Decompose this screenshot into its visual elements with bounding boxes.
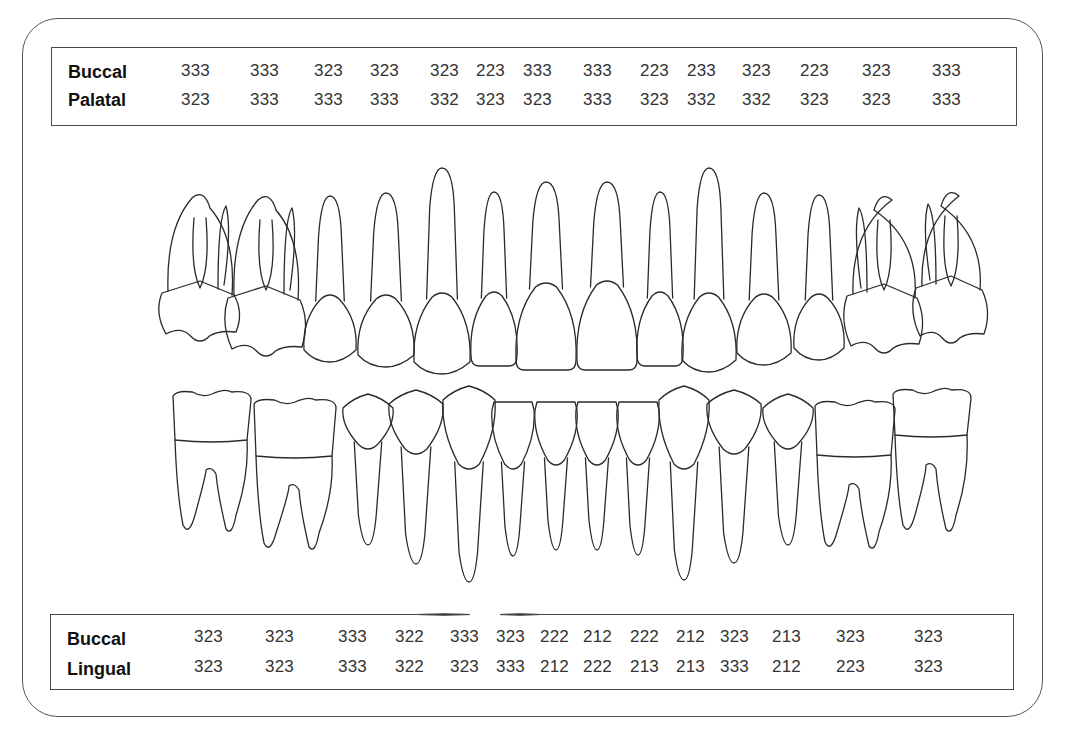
lower-canine-root-icon [455,462,484,582]
upper-incisor-crown-icon [577,281,637,370]
upper-incisor-root-icon [530,182,563,289]
upper-molar-root-icon [284,208,295,294]
upper-molar-crown-icon [159,281,240,341]
upper-incisor-root-icon [647,192,672,298]
lower-molar-root-icon [256,456,332,549]
lower-molar-root-icon [175,440,247,531]
upper-premolar-root-icon [316,196,345,301]
upper-molar-root-icon [234,197,299,300]
lower-canine-crown-icon [443,386,495,469]
lower-premolar-root-icon [774,442,802,545]
dental-arch-diagram [0,0,1069,740]
upper-premolar-crown-icon [304,295,356,362]
lower-incisor-crown-icon [576,402,618,465]
upper-premolar-root-icon [805,195,833,300]
lower-premolar-root-icon [354,442,382,545]
lower-canine-crown-icon [659,386,709,469]
upper-incisor-crown-icon [637,292,683,366]
upper-molar-root-icon [853,197,915,298]
upper-premolar-root-icon [371,193,402,301]
lower-incisor-crown-icon [535,402,577,465]
lower-molar-crown-icon [815,400,895,457]
upper-molar-root-icon [877,220,891,290]
upper-incisor-crown-icon [516,283,576,370]
upper-canine-root-icon [694,168,724,299]
lower-arch-teeth [173,386,971,582]
lower-premolar-crown-icon [763,394,813,449]
upper-premolar-crown-icon [794,294,844,360]
upper-incisor-root-icon [591,182,624,287]
upper-molar-crown-icon [225,286,306,356]
lower-incisor-crown-icon [492,402,534,469]
lower-premolar-crown-icon [707,390,761,454]
upper-molar-crown-icon [844,284,923,353]
lower-premolar-root-icon [401,447,431,564]
upper-molar-root-icon [193,218,207,288]
upper-molar-root-icon [168,195,233,295]
upper-molar-crown-icon [913,276,988,343]
upper-incisor-crown-icon [471,292,517,366]
lower-premolar-crown-icon [343,394,393,449]
upper-incisor-root-icon [481,192,506,298]
upper-canine-crown-icon [682,293,736,372]
lower-molar-root-icon [817,455,891,548]
lower-canine-root-icon [670,462,698,580]
lower-incisor-root-icon [544,458,567,550]
lower-molar-crown-icon [173,390,251,442]
lower-incisor-root-icon [501,462,524,556]
upper-canine-root-icon [427,168,458,299]
lower-premolar-crown-icon [389,390,443,454]
upper-premolar-root-icon [749,193,779,300]
upper-premolar-crown-icon [737,294,791,365]
upper-premolar-crown-icon [358,295,414,367]
upper-molar-root-icon [218,206,229,289]
lower-incisor-root-icon [626,458,649,555]
lower-molar-root-icon [895,435,967,531]
lower-molar-crown-icon [254,398,336,458]
upper-arch-teeth [159,168,988,374]
lower-molar-crown-icon [893,388,971,437]
upper-canine-crown-icon [414,293,470,374]
upper-molar-root-icon [259,220,273,290]
lower-incisor-root-icon [585,458,608,550]
lower-premolar-root-icon [719,447,749,563]
lower-incisor-crown-icon [617,402,659,465]
